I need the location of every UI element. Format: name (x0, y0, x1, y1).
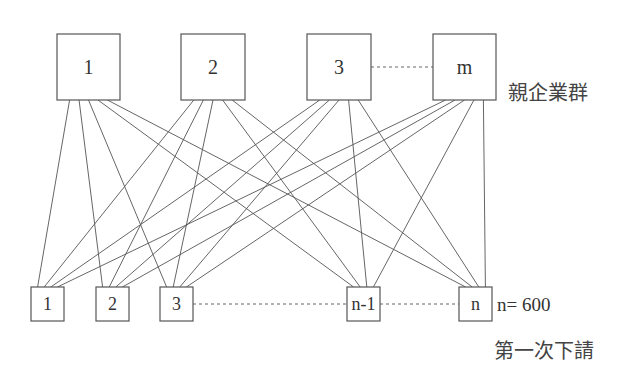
parent-node-2: 2 (181, 34, 245, 100)
parent-node-label: 2 (208, 56, 218, 78)
edge-p2-s3 (173, 100, 213, 287)
subcontractor-node-label: n-1 (352, 294, 376, 314)
edge-pm-sn1 (373, 100, 474, 287)
subcontractor-node-label: 3 (172, 294, 181, 314)
parent-group-label: 親企業群 (508, 81, 588, 105)
edge-p2-s2 (109, 100, 203, 287)
edge-p3-sn1 (349, 100, 367, 287)
parent-node-label: 1 (84, 56, 94, 78)
edge-p3-sn (358, 100, 479, 287)
subcontractor-node-n-1: n-1 (347, 287, 380, 321)
parent-node-1: 1 (57, 34, 120, 100)
bipartite-network-diagram: 123m 123n-1n 親企業群 n= 600 第一次下請 (0, 0, 619, 373)
edge-pm-sn (483, 100, 485, 287)
subcontractor-group-label: 第一次下請 (494, 339, 594, 363)
subcontractor-node-label: 2 (108, 294, 117, 314)
edge-pm-s1 (57, 100, 445, 287)
parent-node-m: m (433, 34, 496, 100)
parent-node-3: 3 (307, 34, 371, 100)
subcontractor-node-label: 1 (43, 294, 52, 314)
subcontractor-node-3: 3 (160, 287, 193, 321)
parent-nodes: 123m (57, 34, 496, 100)
subcontractor-node-2: 2 (96, 287, 129, 321)
edge-p2-sn (232, 100, 472, 287)
subcontractor-count-label: n= 600 (497, 294, 550, 315)
edge-p1-sn (107, 100, 465, 287)
parent-node-label: 3 (334, 56, 344, 78)
edge-pm-s2 (122, 100, 455, 287)
subcontractor-node-1: 1 (31, 287, 64, 321)
subcontractor-node-label: n (471, 294, 480, 314)
edge-p2-sn1 (223, 100, 361, 287)
subcontractor-node-n: n (459, 287, 492, 321)
edge-pm-s3 (186, 100, 464, 287)
parent-node-label: m (457, 56, 473, 78)
edges-layer (38, 100, 486, 287)
edge-p1-s1 (38, 100, 70, 287)
edge-p3-s2 (116, 100, 330, 287)
edge-p1-s3 (89, 100, 167, 287)
edge-p2-s1 (44, 100, 194, 287)
